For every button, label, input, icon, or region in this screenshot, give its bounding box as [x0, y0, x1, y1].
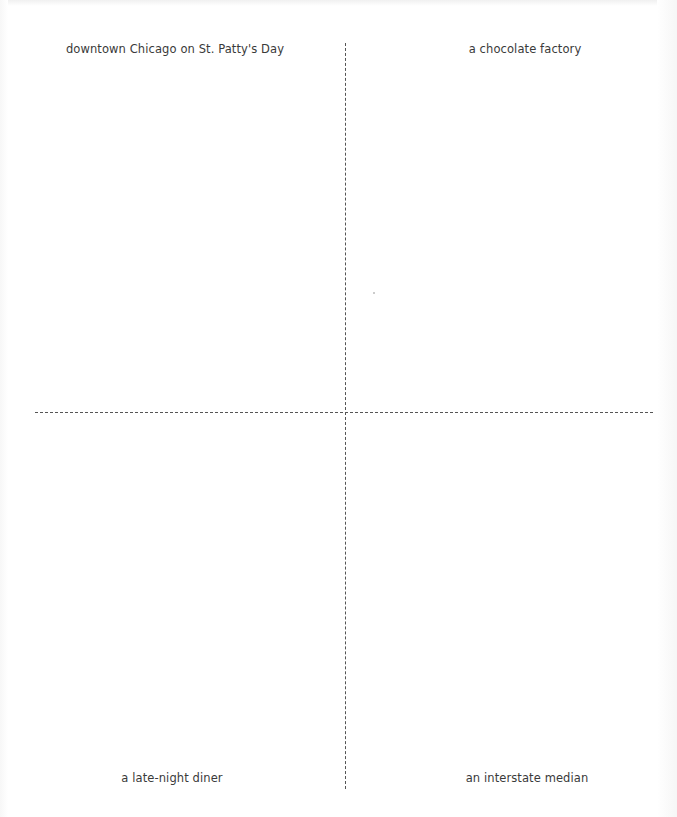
- vertical-cut-line: [345, 43, 346, 789]
- page-edge-shadow-top: [0, 0, 677, 6]
- quadrant-label-top-right: a chocolate factory: [469, 42, 582, 56]
- quadrant-label-bottom-left: a late-night diner: [121, 771, 222, 785]
- quadrant-label-top-left: downtown Chicago on St. Patty's Day: [66, 42, 284, 56]
- stray-mark: [373, 292, 375, 294]
- page-edge-shadow-right: [657, 0, 677, 817]
- page-edge-shadow-left: [0, 0, 8, 817]
- horizontal-cut-line: [35, 412, 653, 413]
- quadrant-label-bottom-right: an interstate median: [466, 771, 589, 785]
